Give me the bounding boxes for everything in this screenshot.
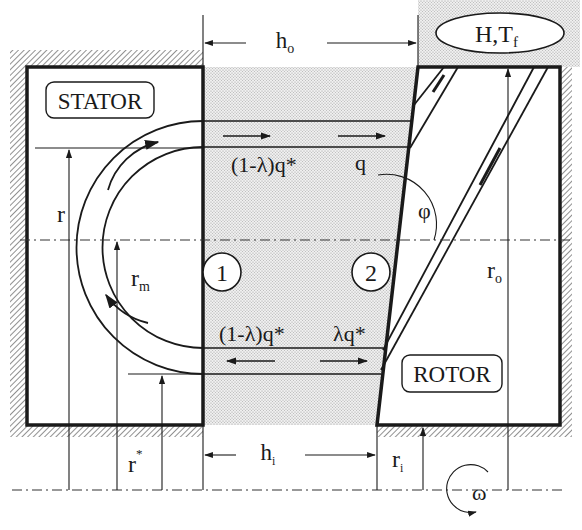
svg-text:ri: ri bbox=[392, 446, 404, 475]
svg-text:r*: r* bbox=[128, 446, 143, 477]
r-i-label: r bbox=[392, 446, 400, 472]
r-star-label: r bbox=[128, 451, 136, 477]
r-o-label: r bbox=[487, 257, 495, 283]
station-1-label: 1 bbox=[216, 260, 228, 286]
svg-text:hi: hi bbox=[261, 440, 277, 468]
flow-label-lower-left: (1-λ)q* bbox=[219, 321, 285, 346]
reservoir-label-sub: f bbox=[513, 34, 518, 50]
station-1-marker: 1 bbox=[203, 253, 241, 291]
r-m-label: r bbox=[131, 265, 139, 291]
omega-label: ω bbox=[472, 480, 486, 505]
h-inner-label: h bbox=[261, 440, 273, 465]
reservoir-label: H,T bbox=[475, 21, 513, 47]
flow-label-upper-right: q bbox=[355, 150, 366, 175]
phi-label: φ bbox=[418, 198, 431, 223]
h-inner-sub: i bbox=[272, 454, 276, 468]
flow-label-lower-right: λq* bbox=[333, 321, 366, 346]
r-m-sub: m bbox=[139, 279, 150, 294]
r-star-sup: * bbox=[136, 446, 143, 461]
r-o-sub: o bbox=[495, 271, 502, 286]
h-outer-label: h bbox=[276, 28, 288, 53]
station-2-label: 2 bbox=[365, 260, 377, 286]
flow-label-upper-left: (1-λ)q* bbox=[231, 152, 297, 177]
station-2-marker: 2 bbox=[352, 253, 390, 291]
svg-text:ho: ho bbox=[276, 28, 295, 56]
r-i-sub: i bbox=[400, 461, 404, 475]
stator-label: STATOR bbox=[58, 89, 143, 114]
rotor-label: ROTOR bbox=[413, 362, 491, 387]
h-outer-sub: o bbox=[287, 41, 294, 56]
seal-schematic: H,Tf STATOR ROTOR 1 2 (1-λ)q* q (1-λ)q* … bbox=[0, 0, 582, 530]
r-label: r bbox=[57, 201, 65, 227]
svg-text:H,Tf: H,Tf bbox=[475, 21, 518, 50]
